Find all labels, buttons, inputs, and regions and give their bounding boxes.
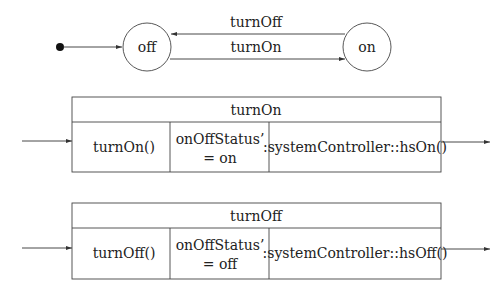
operation-trigger: turnOn() xyxy=(93,139,155,155)
operation-postcondition-line1: onOffStatus’ xyxy=(176,237,265,253)
state-off-label: off xyxy=(138,39,157,55)
state-on-label: on xyxy=(358,39,375,55)
operation-action: :systemController::hsOn() xyxy=(263,139,447,155)
operation-postcondition-line2: = on xyxy=(203,150,237,166)
state-on[interactable]: on xyxy=(343,23,391,71)
diagram-canvas: off on turnOff turnOn turnOn turnOn() on… xyxy=(0,0,504,294)
state-off[interactable]: off xyxy=(123,23,171,71)
operation-box-turnoff: turnOff turnOff() onOffStatus’ = off :sy… xyxy=(22,203,490,279)
initial-state-dot xyxy=(56,43,64,51)
operation-box-turnon: turnOn turnOn() onOffStatus’ = on :syste… xyxy=(22,97,490,172)
operation-postcondition-line1: onOffStatus’ xyxy=(176,131,265,147)
transition-turnon-label: turnOn xyxy=(231,39,282,55)
operation-postcondition-line2: = off xyxy=(203,256,239,272)
transition-turnon[interactable]: turnOn xyxy=(170,39,345,59)
operation-title: turnOn xyxy=(231,102,282,118)
transition-turnoff-label: turnOff xyxy=(230,14,283,30)
operation-action: :systemController::hsOff() xyxy=(262,245,447,261)
transition-turnoff[interactable]: turnOff xyxy=(171,14,345,34)
state-machine: off on turnOff turnOn xyxy=(56,14,391,71)
operation-title: turnOff xyxy=(230,208,283,224)
operation-trigger: turnOff() xyxy=(93,245,156,261)
